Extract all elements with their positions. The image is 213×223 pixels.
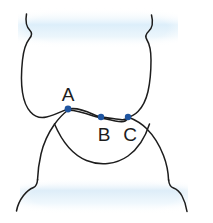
contact-point-label-c: C <box>123 124 137 145</box>
upper-gingival-band <box>18 8 178 48</box>
lower-tooth-outline <box>38 110 69 180</box>
lower-gingival-band <box>20 178 188 214</box>
contact-point-label-a: A <box>62 84 75 105</box>
contact-point-marker-c[interactable] <box>125 114 131 120</box>
contact-point-marker-b[interactable] <box>98 114 104 120</box>
contact-point-marker-a[interactable] <box>65 106 72 113</box>
contact-point-label-b: B <box>98 124 111 145</box>
anatomical-line-drawing: A B C <box>0 0 213 223</box>
figure-container: A B C <box>0 0 213 223</box>
